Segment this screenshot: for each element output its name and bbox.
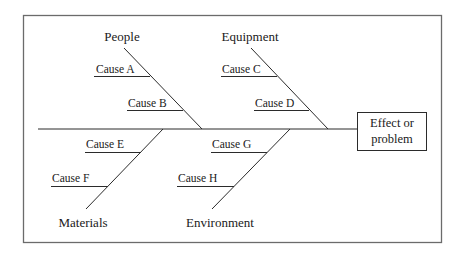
fishbone-diagram: Effect or problem People Cause A Cause B… — [0, 0, 464, 256]
cause-label-e: Cause E — [86, 138, 124, 150]
cause-label-d: Cause D — [255, 97, 294, 109]
cause-label-a: Cause A — [96, 63, 135, 75]
cause-label-c: Cause C — [222, 63, 261, 75]
effect-label-line1: Effect or — [370, 116, 415, 130]
cause-label-g: Cause G — [212, 138, 251, 150]
cause-label-h: Cause H — [178, 172, 217, 184]
cause-label-b: Cause B — [128, 97, 167, 109]
category-label-people: People — [104, 29, 140, 44]
category-label-environment: Environment — [186, 215, 254, 230]
effect-box: Effect or problem — [358, 113, 427, 151]
cause-label-f: Cause F — [52, 172, 89, 184]
category-label-equipment: Equipment — [221, 29, 278, 44]
effect-label-line2: problem — [371, 132, 413, 146]
category-label-materials: Materials — [58, 215, 107, 230]
